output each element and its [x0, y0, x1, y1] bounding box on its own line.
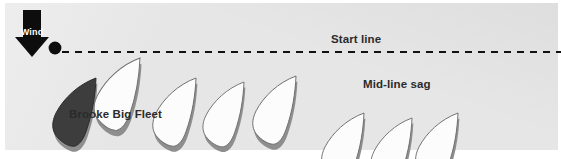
- hull: [244, 69, 318, 149]
- mid-line-sag-label: Mid-line sag: [363, 78, 431, 90]
- hull: [407, 106, 479, 159]
- brooke-big-fleet-label: Brooke Big Fleet: [69, 108, 162, 120]
- pin-end-buoy: [49, 42, 62, 55]
- diagram-scene: [0, 0, 561, 159]
- boat-boat-4: [241, 69, 321, 154]
- hull: [194, 76, 264, 152]
- start-line-label: Start line: [331, 33, 381, 45]
- sailing-start-diagram: Start line Mid-line sag Brooke Big Fleet…: [0, 0, 561, 159]
- boats-layer: [41, 51, 482, 159]
- boat-boat-7: [404, 106, 482, 159]
- wind-arrow-icon: [15, 10, 49, 57]
